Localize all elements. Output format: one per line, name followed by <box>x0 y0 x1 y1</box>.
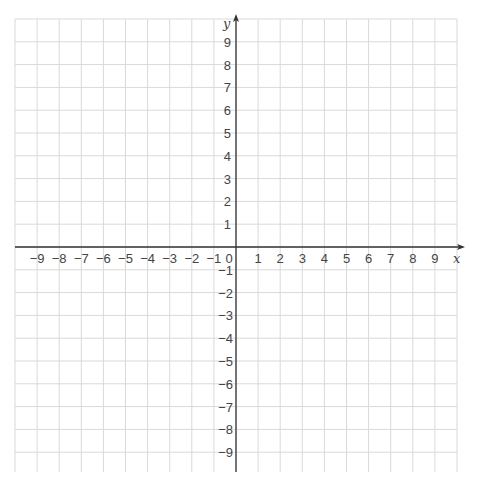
x-tick-label: 3 <box>299 251 306 266</box>
x-tick-label: 8 <box>409 251 416 266</box>
y-tick-label: 9 <box>224 35 231 50</box>
coordinate-plane: −9−8−7−6−5−4−3−2−10123456789123456789−1−… <box>0 0 478 494</box>
x-axis-label: x <box>453 251 461 266</box>
x-tick-label: 2 <box>277 251 284 266</box>
y-axis-label: y <box>222 16 231 31</box>
x-tick-label: 4 <box>321 251 328 266</box>
y-tick-label: −1 <box>218 263 233 278</box>
y-tick-label: −6 <box>218 377 233 392</box>
y-tick-label: −5 <box>218 354 233 369</box>
y-tick-label: 4 <box>224 149 231 164</box>
y-tick-label: −4 <box>218 331 233 346</box>
x-tick-label: −7 <box>74 251 89 266</box>
x-tick-label: 5 <box>343 251 350 266</box>
y-tick-label: −3 <box>218 308 233 323</box>
y-tick-label: 3 <box>224 172 231 187</box>
tick-labels: −9−8−7−6−5−4−3−2−10123456789123456789−1−… <box>30 16 461 460</box>
y-tick-label: 2 <box>224 194 231 209</box>
y-tick-label: 8 <box>224 58 231 73</box>
x-tick-label: −3 <box>162 251 177 266</box>
y-tick-label: 6 <box>224 103 231 118</box>
y-tick-label: −8 <box>218 422 233 437</box>
x-tick-label: −6 <box>96 251 111 266</box>
x-tick-label: 1 <box>254 251 261 266</box>
y-tick-label: −7 <box>218 400 233 415</box>
x-tick-label: 9 <box>431 251 438 266</box>
x-tick-label: −5 <box>118 251 133 266</box>
x-tick-label: −2 <box>184 251 199 266</box>
axes <box>15 14 465 472</box>
x-tick-label: 7 <box>387 251 394 266</box>
x-tick-label: −9 <box>30 251 45 266</box>
x-tick-label: −4 <box>140 251 155 266</box>
y-tick-label: −2 <box>218 286 233 301</box>
y-tick-label: 7 <box>224 80 231 95</box>
x-tick-label: 6 <box>365 251 372 266</box>
y-tick-label: 1 <box>224 217 231 232</box>
y-tick-label: −9 <box>218 445 233 460</box>
x-tick-label: −8 <box>52 251 67 266</box>
y-tick-label: 5 <box>224 126 231 141</box>
